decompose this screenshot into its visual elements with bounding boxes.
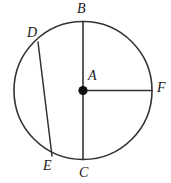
geometry-canvas [0, 0, 171, 183]
point-label-a: A [88, 69, 97, 83]
point-label-c: C [79, 166, 88, 180]
chord-de [38, 42, 52, 156]
point-label-f: F [157, 81, 166, 95]
circle-diagram: B D A F E C [0, 0, 171, 183]
point-label-b: B [77, 2, 86, 16]
center-point-a [78, 86, 87, 95]
point-label-d: D [27, 26, 37, 40]
point-label-e: E [43, 159, 52, 173]
